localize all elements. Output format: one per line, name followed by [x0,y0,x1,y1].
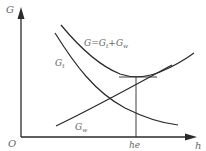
optimum-height-diagram: G O h he G=Gt+Gw Gt Gw [0,0,206,151]
optimum-he-label: he [129,140,140,150]
total-cost-label: G=Gt+Gw [84,38,129,49]
origin-label: O [8,138,16,149]
y-axis-arrow-icon [18,7,25,19]
gw-label-main: G [75,122,82,132]
total-label-main: G=G [84,38,106,48]
x-axis-label: h [195,140,201,151]
total-label-mid: +G [108,38,123,48]
x-axis [21,134,197,141]
total-label-sub2: w [123,42,129,49]
total-cost-curve [61,25,194,77]
y-axis [18,7,25,137]
gw-label-sub: w [82,126,88,133]
gt-label-sub: t [62,62,65,69]
gt-label: Gt [55,58,65,69]
y-axis-label: G [6,4,14,15]
gt-label-main: G [55,58,62,68]
gw-label: Gw [75,122,88,133]
